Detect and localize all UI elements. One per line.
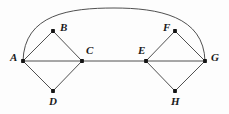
vertex-label-b: B — [60, 22, 67, 33]
edge-layer — [23, 8, 205, 91]
graph-vertex-b — [51, 29, 55, 33]
vertex-label-f: F — [163, 22, 170, 33]
graph-edge-e-h — [146, 61, 175, 91]
graph-vertex-e — [144, 59, 148, 63]
graph-vertex-d — [51, 89, 55, 93]
graph-edge-f-g — [175, 31, 205, 61]
vertex-label-h: H — [171, 96, 180, 107]
graph-vertex-a — [21, 59, 25, 63]
graph-edge-d-c — [53, 61, 82, 91]
graph-vertex-h — [173, 89, 177, 93]
vertex-label-c: C — [86, 45, 93, 56]
graph-vertex-c — [80, 59, 84, 63]
graph-edge-h-g — [175, 61, 205, 91]
graph-figure: ABCDEFGH — [0, 0, 229, 114]
vertex-label-a: A — [10, 52, 17, 63]
graph-edge-b-c — [53, 31, 82, 61]
graph-edge-a-g — [23, 8, 205, 61]
graph-edge-a-d — [23, 61, 53, 91]
vertex-label-d: D — [49, 96, 57, 107]
vertex-label-e: E — [138, 45, 145, 56]
graph-edge-e-f — [146, 31, 175, 61]
graph-canvas — [0, 0, 229, 114]
vertex-label-g: G — [211, 52, 219, 63]
graph-vertex-f — [173, 29, 177, 33]
graph-vertex-g — [203, 59, 207, 63]
graph-edge-a-b — [23, 31, 53, 61]
